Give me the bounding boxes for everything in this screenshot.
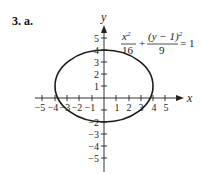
ellipse-graph: x y −5 −4 −3 −2 −1 1 2 3 4 5 [0,0,201,174]
eq-plus: + [139,37,145,49]
svg-text:2: 2 [94,69,99,80]
svg-text:−2: −2 [72,102,83,113]
svg-text:−5: −5 [35,102,46,113]
svg-text:5: 5 [94,33,99,44]
eq-term1-denominator: 16 [122,44,134,56]
svg-text:2: 2 [127,102,132,113]
svg-text:1: 1 [115,102,120,113]
eq-equals: = 1 [180,37,194,49]
svg-text:−4: −4 [88,141,99,152]
svg-text:5: 5 [164,102,169,113]
svg-text:4: 4 [152,102,157,113]
svg-text:−1: −1 [85,102,96,113]
svg-text:−3: −3 [88,129,99,140]
svg-text:−5: −5 [88,153,99,164]
eq-term2-numerator: (y − 1)2 [148,30,183,43]
x-axis-label: x [186,91,193,105]
y-axis-arrow-icon [101,25,107,33]
ellipse-equation: x2 16 + (y − 1)2 9 = 1 [121,30,194,56]
svg-text:3: 3 [94,57,99,68]
x-axis-arrow-icon [176,95,184,101]
eq-term1-numerator: x2 [121,30,131,42]
y-axis-label: y [100,10,107,24]
svg-text:−4: −4 [48,102,59,113]
x-tick-labels: −5 −4 −3 −2 −1 1 2 3 4 5 [35,102,169,113]
svg-text:1: 1 [94,81,99,92]
eq-term2-denominator: 9 [159,44,165,56]
